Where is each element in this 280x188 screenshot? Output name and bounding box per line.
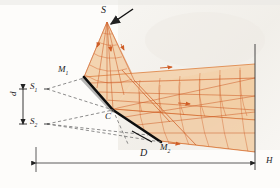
label-screen-h: H [266, 156, 273, 165]
label-separation-d: d [9, 92, 18, 97]
figure-canvas: S S1 S2 d M1 M2 C D H [0, 0, 280, 188]
ray-diagram-svg [0, 0, 280, 188]
texture-blob-a [145, 12, 265, 68]
label-mirror-1: M1 [58, 65, 68, 76]
label-source: S [101, 5, 106, 15]
label-mirror-2: M2 [160, 143, 170, 154]
label-virtual-source-2: S2 [30, 117, 37, 128]
label-vertex-c: C [105, 112, 111, 121]
label-virtual-source-1: S1 [30, 82, 37, 93]
top-edge-band [0, 0, 280, 5]
figure-caption [0, 181, 280, 188]
label-distance-d: D [140, 148, 147, 158]
